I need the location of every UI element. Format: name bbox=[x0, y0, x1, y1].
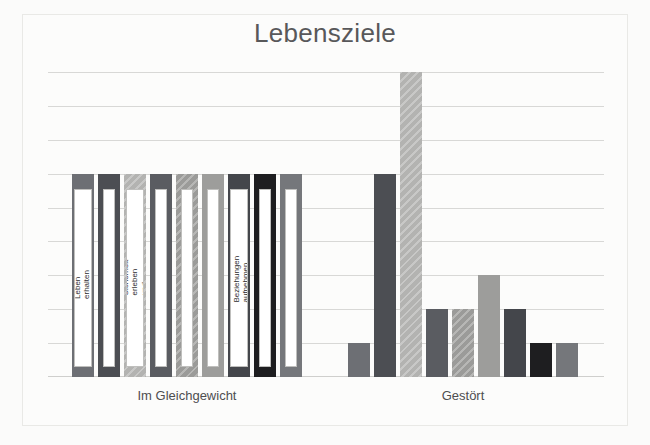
bar-slot: Den eigenen Rhythmus entwickeln bbox=[150, 72, 172, 377]
bar-slot bbox=[452, 72, 474, 377]
bar-slot: Leben erhalten und Entwicklung erfahren bbox=[72, 72, 94, 377]
bar-slot bbox=[478, 72, 500, 377]
bar-slot: Das eigene Leben spüren bbox=[98, 72, 120, 377]
bar-slot bbox=[530, 72, 552, 377]
plot-area: Leben erhalten und Entwicklung erfahrenD… bbox=[48, 72, 604, 377]
bar-label-chip: Das eigene Leben spüren bbox=[103, 189, 115, 367]
bar-label-chip: Den eigenen Rhythmus entwickeln bbox=[155, 189, 167, 367]
bar-group-gestoert bbox=[348, 72, 578, 377]
bar-label-text: Sicherheit erleben und Vertrauen aufbaue… bbox=[126, 260, 144, 296]
bar-slot bbox=[348, 72, 370, 377]
bar-label-chip: Autonomie und Verantwortung leben bbox=[285, 189, 297, 367]
bar-slot: Autonomie und Verantwortung leben bbox=[280, 72, 302, 377]
bar[interactable] bbox=[348, 343, 370, 377]
bar-slot: Sicherheit erleben und Vertrauen aufbaue… bbox=[124, 72, 146, 377]
bar-slot: Sinn und Bedeutung geben und erfahren bbox=[254, 72, 276, 377]
bar-label-text: Beziehungen aufnehmen und Begegnungen ge… bbox=[232, 253, 248, 303]
bar[interactable] bbox=[400, 72, 422, 377]
bar[interactable] bbox=[374, 174, 396, 377]
bar-label-chip: Sinn und Bedeutung geben und erfahren bbox=[259, 189, 271, 367]
bar-slot: Das Leben selbst gestalten bbox=[176, 72, 198, 377]
bar[interactable] bbox=[426, 309, 448, 377]
bar-slot bbox=[426, 72, 448, 377]
bar[interactable] bbox=[530, 343, 552, 377]
bar[interactable] bbox=[556, 343, 578, 377]
chart-page: Lebensziele Leben erhalten und Entwicklu… bbox=[0, 0, 650, 445]
bar-slot bbox=[374, 72, 396, 377]
chart-title: Lebensziele bbox=[0, 18, 650, 49]
bar[interactable] bbox=[478, 275, 500, 377]
bar-slot bbox=[556, 72, 578, 377]
bar-slot bbox=[400, 72, 422, 377]
bar-label-chip: Das Leben selbst gestalten bbox=[181, 189, 193, 367]
bar-slot: Beziehungen aufnehmen und Begegnungen ge… bbox=[228, 72, 250, 377]
category-label-left: Im Gleichgewicht bbox=[72, 388, 302, 403]
bar-slot bbox=[504, 72, 526, 377]
bar-label-chip: Beziehungen aufnehmen und Begegnungen ge… bbox=[230, 189, 248, 367]
bar-label-text: Leben erhalten und Entwicklung erfahren bbox=[74, 257, 92, 300]
bar-slot: Die Außenwelt erfahren bbox=[202, 72, 224, 377]
bar-label-chip: Leben erhalten und Entwicklung erfahren bbox=[74, 189, 92, 367]
bar[interactable] bbox=[504, 309, 526, 377]
bar-group-im-gleichgewicht: Leben erhalten und Entwicklung erfahrenD… bbox=[72, 72, 302, 377]
category-label-right: Gestört bbox=[348, 388, 578, 403]
bar-label-chip: Sicherheit erleben und Vertrauen aufbaue… bbox=[126, 189, 144, 367]
bar[interactable] bbox=[452, 309, 474, 377]
bar-label-chip: Die Außenwelt erfahren bbox=[207, 189, 219, 367]
